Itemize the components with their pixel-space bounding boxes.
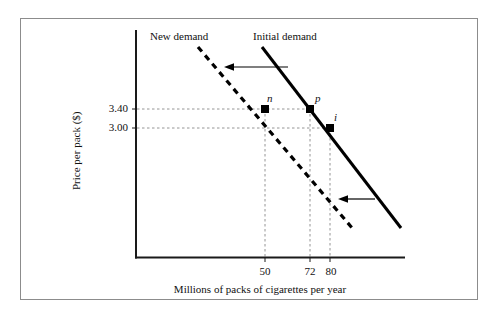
gridline-group <box>137 109 331 258</box>
new-demand-label: New demand <box>150 30 208 42</box>
point-label-p: p <box>315 92 321 104</box>
x-tick-label-80: 80 <box>311 265 351 277</box>
shift-arrow-upper-head <box>224 63 234 71</box>
initial-demand-label: Initial demand <box>253 30 317 42</box>
initial-demand-curve[interactable] <box>262 47 401 228</box>
shift-arrow-lower-head <box>338 195 348 203</box>
figure-container: New demand Initial demand n p i 3.40 3.0… <box>0 0 498 317</box>
x-tick-marks <box>265 258 330 262</box>
data-point-i[interactable] <box>326 124 334 132</box>
data-point-p[interactable] <box>306 105 314 113</box>
y-tick-label-340: 3.40 <box>84 102 128 114</box>
shift-arrow-lower <box>338 195 375 203</box>
data-point-n[interactable] <box>261 105 269 113</box>
x-tick-label-50: 50 <box>245 265 285 277</box>
point-label-i: i <box>334 111 337 123</box>
y-axis-title: Price per pack ($) <box>70 112 82 191</box>
point-label-n: n <box>267 92 273 104</box>
y-tick-label-300: 3.00 <box>84 121 128 133</box>
x-axis-title: Millions of packs of cigarettes per year <box>150 283 370 295</box>
